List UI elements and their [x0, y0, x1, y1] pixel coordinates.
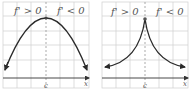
max-point — [143, 17, 147, 21]
c-label: c — [44, 82, 48, 90]
left-panel: f' > 0 f' < 0 c x — [3, 2, 89, 90]
diagram-canvas: f' > 0 f' < 0 c x f' > 0 f' < 0 c x — [0, 0, 191, 99]
x-label: x — [183, 80, 187, 88]
left-label: f' > 0 — [13, 5, 42, 16]
right-label: f' < 0 — [155, 6, 184, 17]
x-label: x — [84, 80, 88, 88]
max-point — [44, 16, 47, 19]
left-label: f' > 0 — [110, 6, 139, 17]
right-label: f' < 0 — [56, 5, 85, 16]
c-label: c — [143, 82, 147, 90]
right-panel: f' > 0 f' < 0 c x — [102, 2, 188, 90]
